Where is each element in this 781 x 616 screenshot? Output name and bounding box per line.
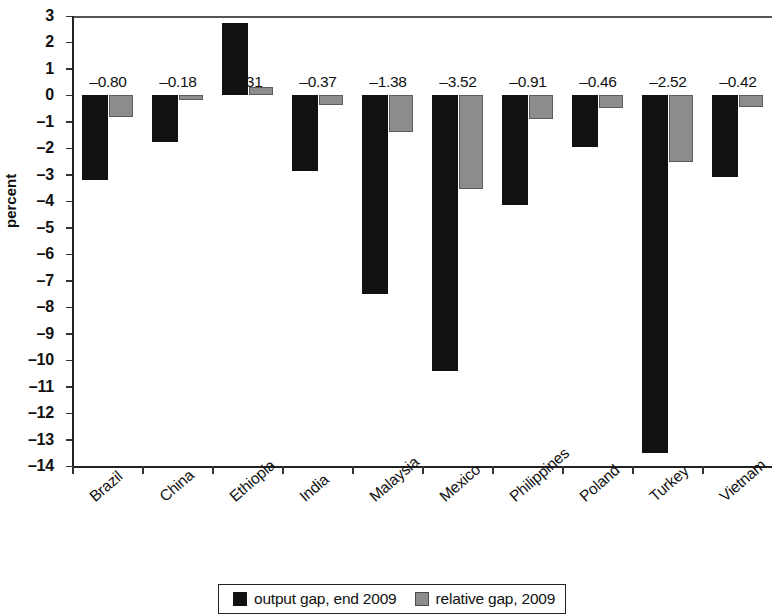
- y-axis-tick-label: –13: [14, 432, 54, 448]
- category-label-china: China: [156, 466, 198, 505]
- x-axis-tick: [72, 466, 74, 474]
- y-axis-tick: [66, 439, 72, 441]
- bar-gray-philippines: [529, 95, 553, 119]
- bar-gray-china: [179, 95, 203, 100]
- bar-gray-vietnam: [739, 95, 763, 106]
- bar-black-india: [292, 95, 318, 170]
- category-label-turkey: Turkey: [646, 462, 692, 506]
- bar-black-poland: [572, 95, 598, 147]
- bar-black-vietnam: [712, 95, 738, 177]
- bar-black-mexico: [432, 95, 458, 370]
- y-axis-line: [72, 16, 74, 468]
- y-axis-tick-label: –4: [14, 193, 54, 209]
- y-axis-tick-label: 3: [14, 8, 54, 24]
- zero-baseline: [72, 16, 772, 18]
- y-axis-tick: [66, 254, 72, 256]
- y-axis-tick-label: –2: [14, 140, 54, 156]
- category-label-india: India: [296, 471, 332, 506]
- y-axis-tick-label: –7: [14, 273, 54, 289]
- x-axis-tick: [562, 466, 564, 474]
- y-axis-tick-label: –3: [14, 167, 54, 183]
- bar-value-label: –2.52: [637, 73, 699, 91]
- y-axis-tick-label: 0: [14, 87, 54, 103]
- x-axis-tick: [492, 466, 494, 474]
- x-axis-tick: [702, 466, 704, 474]
- legend-label-output-gap: output gap, end 2009: [254, 590, 397, 608]
- x-axis-tick: [282, 466, 284, 474]
- y-axis-tick-label: –14: [14, 458, 54, 474]
- legend-item-relative-gap: relative gap, 2009: [415, 590, 556, 608]
- bar-gray-mexico: [459, 95, 483, 188]
- y-axis-tick: [66, 95, 72, 97]
- bar-value-label: –0.91: [497, 73, 559, 91]
- y-axis-tick: [66, 307, 72, 309]
- bar-black-philippines: [502, 95, 528, 205]
- x-axis-tick: [632, 466, 634, 474]
- y-axis-tick: [66, 148, 72, 150]
- legend-swatch-gray-icon: [415, 592, 429, 606]
- legend-item-output-gap: output gap, end 2009: [233, 590, 397, 608]
- y-axis-tick-label: 2: [14, 34, 54, 50]
- bar-gray-malaysia: [389, 95, 413, 132]
- bar-black-brazil: [82, 95, 108, 180]
- y-axis-tick-label: –12: [14, 405, 54, 421]
- bar-gray-poland: [599, 95, 623, 107]
- y-axis-tick-label: –8: [14, 299, 54, 315]
- y-axis-tick: [66, 386, 72, 388]
- bar-gray-india: [319, 95, 343, 105]
- y-axis-tick-label: 1: [14, 61, 54, 77]
- plot-area: 3210–1–2–3–4–5–6–7–8–9–10–11–12–13–14 –0…: [72, 16, 772, 468]
- x-axis-tick: [212, 466, 214, 474]
- bar-black-turkey: [642, 95, 668, 452]
- y-axis-tick: [66, 42, 72, 44]
- y-axis-tick-label: –9: [14, 326, 54, 342]
- x-axis-tick: [142, 466, 144, 474]
- category-label-brazil: Brazil: [86, 467, 126, 505]
- bar-black-china: [152, 95, 178, 141]
- bar-value-label: –0.42: [707, 73, 769, 91]
- bar-value-label: –1.38: [357, 73, 419, 91]
- y-axis-tick: [66, 333, 72, 335]
- y-axis-tick: [66, 174, 72, 176]
- y-axis-tick: [66, 68, 72, 70]
- chart-legend: output gap, end 2009 relative gap, 2009: [218, 584, 566, 614]
- bar-value-label: –3.52: [427, 73, 489, 91]
- y-axis-tick-label: –6: [14, 246, 54, 262]
- bar-chart: percent 3210–1–2–3–4–5–6–7–8–9–10–11–12–…: [0, 0, 781, 616]
- bar-value-label: –0.18: [147, 73, 209, 91]
- bar-value-label: 0.31: [217, 73, 279, 91]
- y-axis-tick-label: –11: [14, 379, 54, 395]
- bar-value-label: –0.37: [287, 73, 349, 91]
- y-axis-tick: [66, 413, 72, 415]
- bar-black-malaysia: [362, 95, 388, 294]
- bar-value-label: –0.80: [77, 73, 139, 91]
- y-axis-tick-label: –1: [14, 114, 54, 130]
- y-axis-tick: [66, 201, 72, 203]
- legend-label-relative-gap: relative gap, 2009: [436, 590, 556, 608]
- bar-gray-brazil: [109, 95, 133, 116]
- x-axis-tick: [352, 466, 354, 474]
- y-axis-tick: [66, 280, 72, 282]
- legend-swatch-black-icon: [233, 592, 247, 606]
- bar-gray-turkey: [669, 95, 693, 162]
- x-axis-tick: [422, 466, 424, 474]
- y-axis-tick: [66, 121, 72, 123]
- y-axis-tick: [66, 360, 72, 362]
- y-axis-tick: [66, 16, 72, 18]
- y-axis-tick-label: –10: [14, 352, 54, 368]
- y-axis-tick-label: –5: [14, 220, 54, 236]
- bar-value-label: –0.46: [567, 73, 629, 91]
- y-axis-tick: [66, 227, 72, 229]
